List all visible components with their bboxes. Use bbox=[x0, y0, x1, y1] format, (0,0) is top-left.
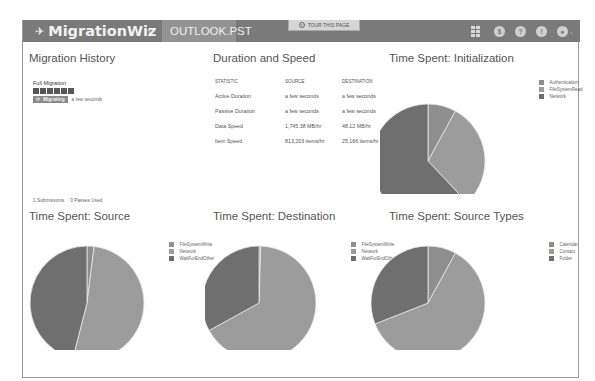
chart-legend: AuthenticationFileSystemReadNetwork bbox=[539, 79, 583, 100]
pie-chart[interactable] bbox=[23, 210, 151, 350]
contact-icon bbox=[47, 88, 53, 94]
folder-icon bbox=[68, 88, 74, 94]
cell: Item Speed bbox=[215, 133, 285, 148]
migration-history-panel: Migration History Full Migration ⟳ Migra… bbox=[29, 52, 209, 197]
mail-icon bbox=[33, 88, 39, 94]
table-header-row: STATISTIC SOURCE DESTINATION bbox=[215, 74, 392, 88]
table-row: Passive Duration a few seconds a few sec… bbox=[215, 103, 392, 118]
legend-item[interactable]: Network bbox=[539, 93, 583, 100]
legend-swatch bbox=[549, 256, 554, 261]
question-icon: ? bbox=[299, 22, 305, 28]
panel-title: Duration and Speed bbox=[213, 52, 393, 64]
tour-label: TOUR THIS PAGE bbox=[308, 22, 350, 28]
legend-item[interactable]: Authentication bbox=[539, 79, 583, 86]
duration-speed-panel: Duration and Speed STATISTIC SOURCE DEST… bbox=[213, 52, 393, 148]
table-row: Data Speed 1,745.38 MB/hr 48.12 MB/hr bbox=[215, 118, 392, 133]
nav-icons: $ ? ! ● ⌄ bbox=[471, 20, 574, 42]
status-badge[interactable]: ⟳ Migrating bbox=[33, 96, 68, 103]
time-ago: a few seconds bbox=[72, 97, 103, 102]
passes-used: 0 Passes Used bbox=[70, 198, 102, 203]
user-menu[interactable]: ● ⌄ bbox=[557, 26, 574, 37]
history-footer: 1 Submissions 0 Passes Used bbox=[33, 198, 102, 203]
legend-item[interactable]: Calendar bbox=[549, 241, 578, 248]
plane-icon: ✈ bbox=[35, 25, 44, 38]
legend-swatch bbox=[549, 242, 554, 247]
column-header: STATISTIC bbox=[215, 74, 285, 88]
note-icon bbox=[61, 88, 67, 94]
status-label: Migrating bbox=[43, 97, 65, 102]
calendar-icon bbox=[40, 88, 46, 94]
dollar-icon[interactable]: $ bbox=[494, 26, 505, 37]
pie-slice[interactable] bbox=[30, 246, 87, 350]
chevron-down-icon: ⌄ bbox=[569, 28, 574, 35]
user-icon: ● bbox=[557, 26, 568, 37]
legend-swatch bbox=[549, 249, 554, 254]
legend-label: Network bbox=[550, 94, 567, 99]
legend-swatch bbox=[169, 256, 174, 261]
top-navigation-bar: ✈ MigrationWiz ↑ OUTLOOK.PST ? TOUR THIS… bbox=[23, 20, 580, 42]
legend-label: Folder bbox=[560, 256, 573, 261]
cell: Active Duration bbox=[215, 88, 285, 103]
chart-title: Time Spent: Initialization bbox=[389, 52, 579, 64]
table-row: Active Duration a few seconds a few seco… bbox=[215, 88, 392, 103]
cell: 1,745.38 MB/hr bbox=[285, 118, 342, 133]
legend-item[interactable]: Contact bbox=[549, 248, 578, 255]
legend-swatch bbox=[539, 80, 544, 85]
source-types-chart-panel: Time Spent: Source Types CalendarContact… bbox=[389, 210, 579, 370]
legend-swatch bbox=[351, 242, 356, 247]
legend-label: Calendar bbox=[560, 242, 578, 247]
table-row: Item Speed 813,203 items/hr 25,166 items… bbox=[215, 133, 392, 148]
initialization-chart-panel: Time Spent: Initialization Authenticatio… bbox=[389, 52, 579, 202]
legend-swatch bbox=[169, 242, 174, 247]
cell: Passive Duration bbox=[215, 103, 285, 118]
cell: a few seconds bbox=[285, 88, 342, 103]
source-chart-panel: Time Spent: Source FileSystemWriteNetwor… bbox=[29, 210, 209, 370]
pie-chart[interactable] bbox=[371, 210, 491, 350]
column-header: SOURCE bbox=[285, 74, 342, 88]
cell: a few seconds bbox=[285, 103, 342, 118]
cell: Data Speed bbox=[215, 118, 285, 133]
legend-label: Network bbox=[180, 249, 197, 254]
help-icon[interactable]: ? bbox=[515, 26, 526, 37]
info-icon[interactable]: ! bbox=[536, 26, 547, 37]
legend-swatch bbox=[351, 256, 356, 261]
project-tab[interactable]: OUTLOOK.PST bbox=[162, 20, 236, 42]
up-arrow-button[interactable]: ↑ bbox=[138, 24, 160, 39]
app-window: ✈ MigrationWiz ↑ OUTLOOK.PST ? TOUR THIS… bbox=[22, 20, 579, 378]
migration-type: Full Migration bbox=[33, 80, 209, 86]
submissions-count: 1 Submissions bbox=[33, 198, 64, 203]
task-icon bbox=[54, 88, 60, 94]
cell: 813,203 items/hr bbox=[285, 133, 342, 148]
legend-swatch bbox=[539, 87, 544, 92]
sync-icon: ⟳ bbox=[36, 97, 40, 102]
legend-label: Authentication bbox=[550, 80, 579, 85]
legend-item[interactable]: FileSystemRead bbox=[539, 86, 583, 93]
chart-legend: CalendarContactFolder bbox=[549, 241, 578, 262]
brand[interactable]: ✈ MigrationWiz bbox=[23, 23, 138, 39]
pie-chart[interactable] bbox=[380, 74, 490, 194]
stats-table: STATISTIC SOURCE DESTINATION Active Dura… bbox=[215, 74, 392, 148]
legend-swatch bbox=[169, 249, 174, 254]
legend-swatch bbox=[539, 94, 544, 99]
legend-label: FileSystemRead bbox=[550, 87, 583, 92]
item-type-icons bbox=[33, 88, 209, 94]
destination-chart-panel: Time Spent: Destination FileSystemWriteN… bbox=[213, 210, 393, 370]
legend-swatch bbox=[351, 249, 356, 254]
migration-status-row: ⟳ Migrating a few seconds bbox=[33, 96, 209, 103]
dashboard-icon[interactable] bbox=[471, 26, 480, 37]
tour-this-page-button[interactable]: ? TOUR THIS PAGE bbox=[288, 20, 360, 31]
panel-title: Migration History bbox=[29, 52, 209, 64]
legend-item[interactable]: Folder bbox=[549, 255, 578, 262]
legend-label: Contact bbox=[560, 249, 576, 254]
pie-chart[interactable] bbox=[205, 210, 325, 350]
